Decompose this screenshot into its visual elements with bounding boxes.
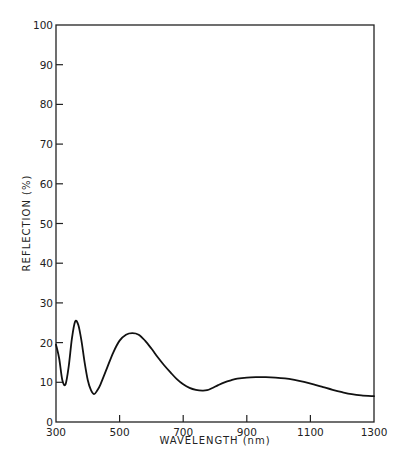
y-tick-label: 70 [40,138,53,150]
y-tick-label: 60 [40,178,53,190]
y-tick-label: 50 [40,218,53,230]
plot-frame [56,25,374,422]
x-tick-label: 1300 [361,426,388,438]
y-tick-label: 40 [40,257,53,269]
x-tick-label: 1100 [297,426,324,438]
x-tick-label: 500 [110,426,130,438]
reflection-chart: 0102030405060708090100 30050070090011001… [0,0,405,468]
x-tick-label: 300 [46,426,66,438]
y-tick-label: 80 [40,98,53,110]
y-tick-label: 10 [40,376,53,388]
y-tick-label: 30 [40,297,53,309]
x-axis-label: WAVELENGTH (nm) [159,435,270,446]
y-axis-ticks: 0102030405060708090100 [33,19,63,428]
y-tick-label: 20 [40,337,53,349]
y-tick-label: 90 [40,59,53,71]
y-axis-label: REFLECTION (%) [21,175,32,272]
reflection-curve [56,321,374,397]
y-tick-label: 100 [33,19,53,31]
